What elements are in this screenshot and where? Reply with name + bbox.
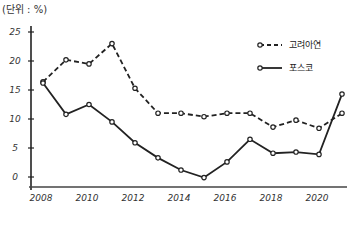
data-point-marker — [156, 111, 160, 115]
data-point-marker — [64, 112, 68, 116]
y-tick-label: 15 — [9, 85, 21, 95]
y-tick-label: 20 — [9, 56, 21, 66]
data-point-marker — [271, 125, 275, 129]
data-point-marker — [340, 92, 344, 96]
data-point-marker — [41, 81, 45, 85]
y-tick-label: 0 — [12, 172, 18, 182]
data-point-marker — [271, 151, 275, 155]
data-point-marker — [317, 152, 321, 156]
data-point-marker — [110, 120, 114, 124]
data-point-marker — [179, 168, 183, 172]
data-point-marker — [340, 111, 344, 115]
data-point-marker — [294, 118, 298, 122]
data-point-marker — [64, 58, 68, 62]
x-tick-label: 2018 — [260, 193, 283, 203]
y-tick-label: 25 — [9, 27, 21, 37]
data-point-marker — [110, 41, 114, 45]
data-point-marker — [225, 111, 229, 115]
data-point-marker — [202, 114, 206, 118]
data-point-marker — [202, 175, 206, 179]
x-tick-label: 2008 — [30, 193, 53, 203]
data-point-marker — [294, 150, 298, 154]
legend-label-0: 고려아연 — [289, 40, 321, 50]
data-point-marker — [248, 111, 252, 115]
data-point-marker — [133, 86, 137, 90]
x-tick-label: 2020 — [306, 193, 329, 203]
data-point-marker — [225, 160, 229, 164]
legend-marker — [258, 66, 262, 70]
line-chart: 0510152025 2008201020122014201620182020 … — [0, 0, 351, 226]
y-tick-label: 10 — [9, 114, 21, 124]
data-point-marker — [87, 102, 91, 106]
x-tick-label: 2016 — [214, 193, 237, 203]
legend-marker — [258, 43, 262, 47]
x-tick-label: 2014 — [168, 193, 191, 203]
x-tick-label: 2010 — [76, 193, 99, 203]
legend-label-1: 포스코 — [289, 63, 313, 73]
legend: 고려아연포스코 — [258, 40, 321, 73]
axes — [29, 26, 347, 190]
data-point-marker — [179, 111, 183, 115]
data-point-marker — [87, 62, 91, 66]
data-point-marker — [248, 137, 252, 141]
y-tick-label: 5 — [12, 143, 18, 153]
series-line-1 — [43, 83, 342, 178]
data-point-marker — [133, 141, 137, 145]
data-point-marker — [317, 126, 321, 130]
data-point-marker — [156, 156, 160, 160]
x-tick-label: 2012 — [122, 193, 145, 203]
x-ticks: 2008201020122014201620182020 — [30, 193, 329, 203]
series-line-0 — [43, 44, 342, 129]
